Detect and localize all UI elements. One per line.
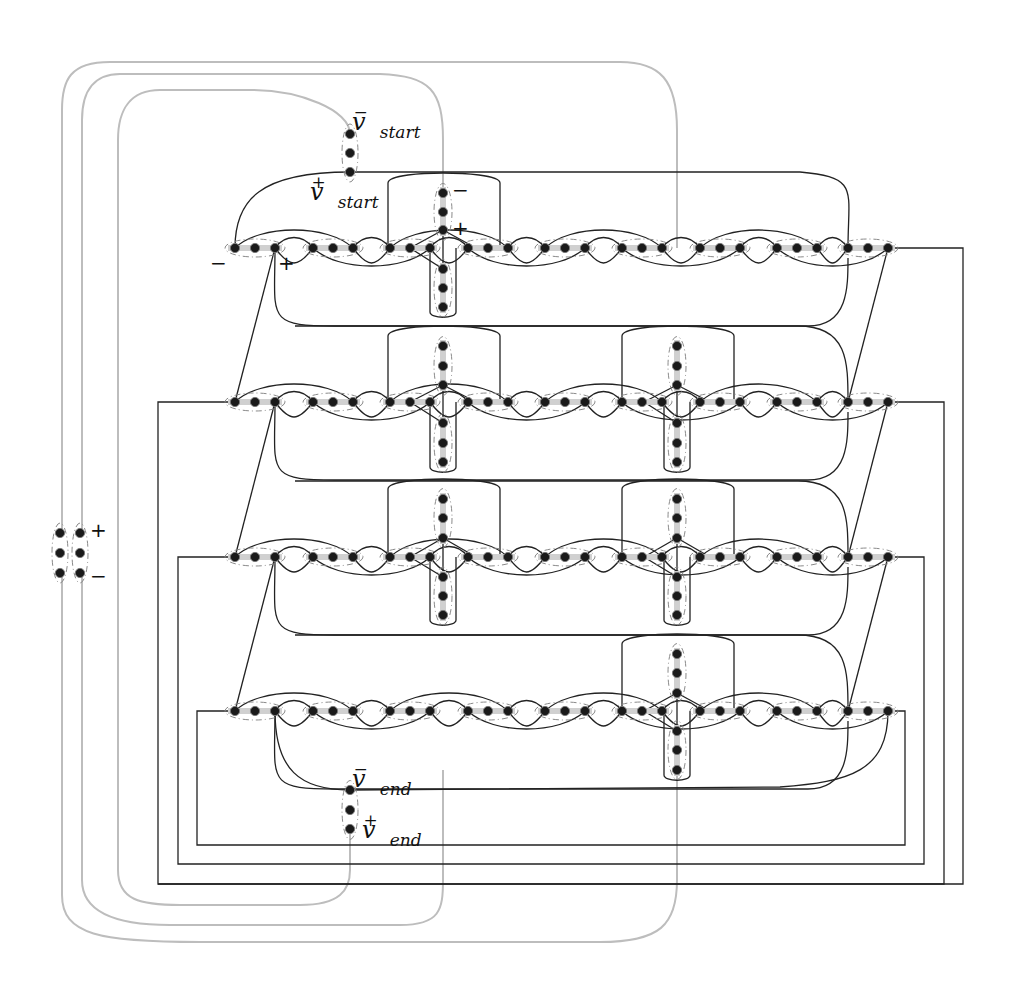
vertex <box>792 706 801 715</box>
vertex <box>438 438 447 447</box>
vertex <box>672 533 681 542</box>
vertex <box>540 397 549 406</box>
vertex <box>580 706 589 715</box>
vertex <box>812 243 821 252</box>
vertex <box>438 302 447 311</box>
vertex <box>863 243 872 252</box>
vertex <box>345 148 354 157</box>
vertex <box>672 418 681 427</box>
vertex <box>843 243 852 252</box>
vertex <box>463 706 472 715</box>
vertex <box>483 243 492 252</box>
vertex <box>672 610 681 619</box>
vertex <box>438 225 447 234</box>
vertex <box>438 361 447 370</box>
vertex <box>657 552 666 561</box>
vertex <box>812 397 821 406</box>
vertex <box>637 552 646 561</box>
vertex <box>438 610 447 619</box>
vertex <box>715 397 724 406</box>
vertex <box>695 552 704 561</box>
vertex <box>843 397 852 406</box>
vertex <box>715 706 724 715</box>
vertex <box>672 745 681 754</box>
vertex <box>637 243 646 252</box>
vertex <box>792 552 801 561</box>
diagonal-edge-right <box>848 402 888 557</box>
vertex <box>883 243 892 252</box>
vertex <box>328 243 337 252</box>
vertex <box>863 397 872 406</box>
diagonal-edge-left <box>235 402 275 557</box>
vertex <box>672 361 681 370</box>
vertex <box>55 548 64 557</box>
vertex <box>463 243 472 252</box>
vertex <box>75 568 84 577</box>
vertex <box>843 552 852 561</box>
vertex <box>438 457 447 466</box>
vertex <box>405 552 414 561</box>
vertex <box>672 668 681 677</box>
vertex <box>483 552 492 561</box>
vertex <box>843 706 852 715</box>
minus-sign: − <box>90 566 107 586</box>
vertex <box>560 706 569 715</box>
vertex <box>637 706 646 715</box>
vertex <box>637 397 646 406</box>
vertex <box>405 397 414 406</box>
vertex <box>503 397 512 406</box>
vertex <box>695 397 704 406</box>
vertex <box>503 243 512 252</box>
black-edges <box>158 172 963 884</box>
vertex <box>883 706 892 715</box>
vertex <box>308 706 317 715</box>
vertex <box>345 805 354 814</box>
vertex <box>463 397 472 406</box>
vertex <box>438 533 447 542</box>
vertex <box>812 552 821 561</box>
label-v-start-plus: v+start <box>310 180 378 204</box>
plus-sign: + <box>452 218 469 238</box>
vertex <box>308 243 317 252</box>
vertex <box>438 207 447 216</box>
vertex <box>385 397 394 406</box>
gray-loop <box>118 90 350 905</box>
vertex <box>580 397 589 406</box>
vertex <box>617 706 626 715</box>
top-edge <box>295 635 848 711</box>
vertex <box>348 243 357 252</box>
vertex <box>463 552 472 561</box>
vertex <box>270 706 279 715</box>
return-edge <box>275 248 848 326</box>
vertex <box>503 552 512 561</box>
vertex <box>560 243 569 252</box>
vertex <box>425 243 434 252</box>
diagonal-edge-right <box>848 557 888 711</box>
vertex <box>230 706 239 715</box>
vertex <box>792 397 801 406</box>
vertex <box>735 397 744 406</box>
top-edge <box>295 481 848 557</box>
vertex <box>657 397 666 406</box>
vertex <box>348 397 357 406</box>
vertex <box>695 243 704 252</box>
vertex <box>438 513 447 522</box>
vertex <box>883 397 892 406</box>
vertex <box>345 824 354 833</box>
vertex <box>617 552 626 561</box>
vertex <box>540 243 549 252</box>
vertex <box>425 706 434 715</box>
minus-sign: − <box>210 253 227 273</box>
vertex <box>715 243 724 252</box>
vertex <box>617 243 626 252</box>
vertex <box>385 706 394 715</box>
vertex <box>230 397 239 406</box>
minus-sign: − <box>452 180 469 200</box>
vertex <box>75 548 84 557</box>
vertex <box>250 243 259 252</box>
vertex <box>308 397 317 406</box>
vertex <box>735 552 744 561</box>
vertex <box>270 552 279 561</box>
vertex <box>812 706 821 715</box>
vertex <box>438 188 447 197</box>
